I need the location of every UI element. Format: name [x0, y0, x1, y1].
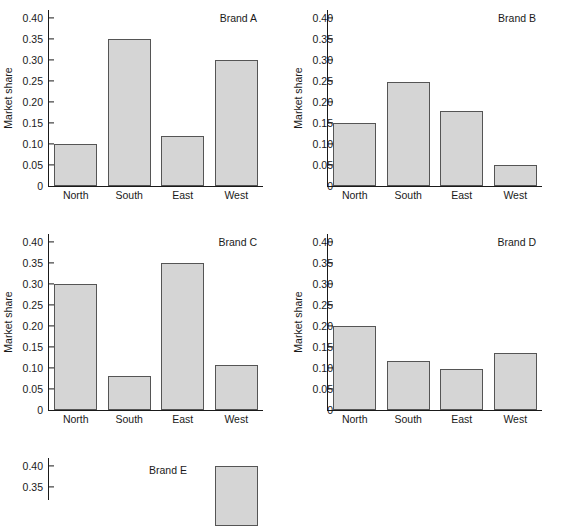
bar-column	[489, 234, 543, 410]
bar-series	[328, 10, 542, 186]
bar[interactable]	[440, 369, 483, 410]
plot-axes: Brand E	[48, 458, 263, 500]
x-axis-tick-label: North	[328, 188, 382, 202]
y-axis-tick-labels: 0.400.35	[10, 458, 43, 530]
x-axis-tick-label: East	[435, 188, 489, 202]
panel-title: Brand D	[497, 236, 536, 248]
chart-panel: Market share0.400.350.300.250.200.150.10…	[0, 234, 565, 434]
bar-series	[328, 234, 542, 410]
bar[interactable]	[215, 466, 258, 526]
x-axis-tick-labels: NorthSouthEastWest	[328, 188, 542, 202]
x-axis-tick-label: West	[489, 188, 543, 202]
bar-column	[328, 234, 382, 410]
x-axis-tick-labels: NorthSouthEastWest	[328, 412, 542, 426]
bar-column	[210, 458, 264, 530]
y-axis-tick-label: 0.35	[23, 481, 43, 493]
bar[interactable]	[387, 361, 430, 410]
x-axis-tick-label: East	[435, 412, 489, 426]
bar[interactable]	[440, 111, 483, 186]
panel-title: Brand E	[149, 464, 187, 476]
plot-axes: NorthSouthEastWestBrand D	[327, 234, 542, 411]
bar[interactable]	[333, 326, 376, 410]
bar-column	[49, 458, 103, 530]
bar[interactable]	[494, 165, 537, 186]
bar[interactable]	[333, 123, 376, 186]
x-axis-tick-label: West	[489, 412, 543, 426]
panel-title: Brand B	[498, 12, 536, 24]
x-axis-tick-label: South	[382, 188, 436, 202]
chart-panel: 0.400.35Brand E	[0, 458, 565, 500]
chart-panel: Market share0.400.350.300.250.200.150.10…	[0, 10, 565, 210]
x-axis-tick-label: North	[328, 412, 382, 426]
bar[interactable]	[387, 82, 430, 186]
plot-axes: NorthSouthEastWestBrand B	[327, 10, 542, 187]
bar[interactable]	[494, 353, 537, 410]
bar-column	[103, 458, 157, 530]
y-axis-tick-label: 0.40	[23, 460, 43, 472]
bar-column	[489, 10, 543, 186]
bar-column	[435, 234, 489, 410]
bar-column	[382, 234, 436, 410]
bar-column	[328, 10, 382, 186]
bar-column	[382, 10, 436, 186]
bar-column	[435, 10, 489, 186]
x-axis-tick-label: South	[382, 412, 436, 426]
